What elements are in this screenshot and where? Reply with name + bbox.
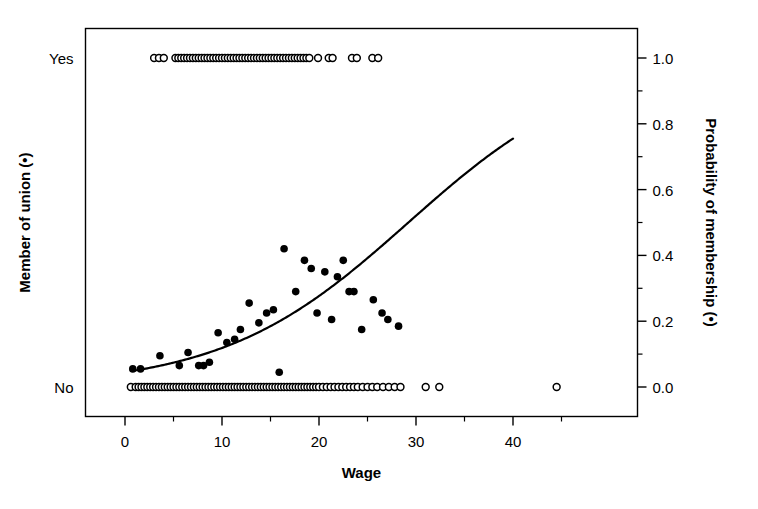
data-point-filled — [263, 309, 271, 317]
data-point-filled — [301, 257, 309, 265]
data-point-filled — [370, 296, 378, 304]
data-point-open — [353, 55, 360, 62]
data-point-open — [329, 55, 336, 62]
x-axis-tick-label: 10 — [214, 433, 231, 450]
data-point-filled — [292, 288, 300, 296]
data-point-open — [315, 55, 322, 62]
data-point-open — [160, 55, 167, 62]
data-layer — [127, 55, 560, 391]
data-point-filled — [339, 257, 347, 265]
right-y-axis-tick-label: 0.8 — [653, 116, 674, 133]
data-point-open — [306, 55, 313, 62]
data-point-filled — [184, 349, 192, 357]
right-y-axis-tick-label: 0.2 — [653, 313, 674, 330]
data-point-filled — [378, 309, 386, 317]
series-rug — [127, 384, 560, 391]
data-point-filled — [245, 299, 253, 307]
left-y-axis-tick-label: No — [54, 379, 73, 396]
data-point-filled — [214, 329, 222, 337]
data-point-filled — [255, 319, 263, 327]
x-axis-tick-label: 30 — [408, 433, 425, 450]
plot-frame — [86, 29, 638, 417]
right-y-axis-tick-label: 0.0 — [653, 379, 674, 396]
data-point-filled — [350, 288, 358, 296]
data-point-filled — [275, 368, 283, 376]
data-point-filled — [328, 316, 336, 324]
chart-figure: 010203040Wage0.00.20.40.60.81.0Probabili… — [0, 0, 758, 509]
x-axis-tick-label: 0 — [121, 433, 129, 450]
left-y-axis-tick-label: Yes — [49, 50, 73, 67]
data-point-filled — [237, 326, 245, 334]
x-axis-tick-label: 20 — [311, 433, 328, 450]
data-point-filled — [384, 316, 392, 324]
x-axis-title: Wage — [342, 464, 381, 481]
logistic-regression-plot: 010203040Wage0.00.20.40.60.81.0Probabili… — [0, 0, 758, 509]
data-point-open — [375, 55, 382, 62]
right-y-axis-tick-label: 0.4 — [653, 247, 674, 264]
data-point-open — [553, 384, 560, 391]
right-y-axis-tick-label: 0.6 — [653, 182, 674, 199]
data-point-open — [436, 384, 443, 391]
data-point-filled — [307, 265, 315, 273]
right-y-axis-title: Probability of membership (•) — [703, 118, 720, 327]
fitted-logistic-curve — [135, 139, 513, 371]
data-point-filled — [280, 245, 288, 253]
data-point-filled — [395, 322, 403, 330]
data-point-filled — [206, 359, 214, 367]
data-point-open — [422, 384, 429, 391]
data-point-filled — [129, 365, 137, 373]
series-rug — [151, 55, 382, 62]
data-point-filled — [313, 309, 321, 317]
data-point-filled — [270, 306, 278, 314]
data-point-filled — [358, 326, 366, 334]
left-y-axis-title: Member of union (•) — [16, 152, 33, 292]
x-axis-tick-label: 40 — [505, 433, 522, 450]
data-point-filled — [321, 268, 329, 276]
data-point-open — [397, 384, 404, 391]
data-point-filled — [156, 352, 164, 360]
right-y-axis-tick-label: 1.0 — [653, 50, 674, 67]
